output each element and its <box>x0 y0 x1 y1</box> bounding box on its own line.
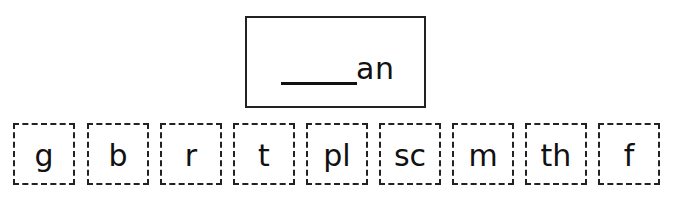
blank-line[interactable] <box>281 82 357 85</box>
tile-label: t <box>258 141 270 171</box>
letter-tile-t[interactable]: t <box>233 123 295 185</box>
tile-label: f <box>624 141 635 171</box>
letter-tile-sc[interactable]: sc <box>379 123 441 185</box>
tile-label: pl <box>323 141 350 171</box>
letter-tile-m[interactable]: m <box>452 123 514 185</box>
word-family-suffix: an <box>356 54 394 84</box>
tile-label: r <box>185 141 197 171</box>
letter-tile-f[interactable]: f <box>598 123 660 185</box>
letter-tile-row: g b r t pl sc m th f <box>13 123 673 186</box>
letter-tile-r[interactable]: r <box>160 123 222 185</box>
word-target-box[interactable]: an <box>245 16 426 108</box>
tile-label: b <box>108 141 127 171</box>
letter-tile-pl[interactable]: pl <box>306 123 368 185</box>
tile-label: th <box>541 141 572 171</box>
letter-tile-b[interactable]: b <box>87 123 149 185</box>
letter-tile-th[interactable]: th <box>525 123 587 185</box>
tile-label: g <box>34 141 53 171</box>
tile-label: m <box>468 141 497 171</box>
letter-tile-g[interactable]: g <box>13 123 75 185</box>
tile-label: sc <box>394 141 426 171</box>
